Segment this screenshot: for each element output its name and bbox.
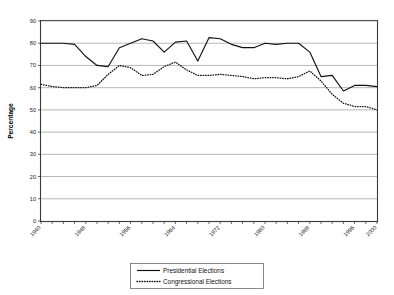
legend-label-congressional: Congressional Elections: [163, 278, 232, 286]
chart-legend: Presidential Elections Congressional Ele…: [131, 264, 264, 289]
y-tick-label: 90: [30, 18, 36, 24]
turnout-line-chart: 9080706050403020100 19401948195619641972…: [0, 0, 394, 295]
y-tick-label: 20: [30, 174, 36, 180]
y-tick-label: 30: [30, 151, 36, 157]
y-tick-label: 80: [30, 40, 36, 46]
legend-label-presidential: Presidential Elections: [163, 267, 224, 274]
y-tick-label: 10: [30, 196, 36, 202]
y-axis-title: Percentage: [7, 103, 15, 139]
y-tick-label: 60: [30, 85, 36, 91]
y-tick-label: 70: [30, 62, 36, 68]
y-tick-label: 0: [33, 218, 36, 224]
y-tick-label: 50: [30, 107, 36, 113]
y-tick-label: 40: [30, 129, 36, 135]
plot-area-frame: [41, 21, 378, 222]
chart-container: 9080706050403020100 19401948195619641972…: [0, 0, 394, 295]
